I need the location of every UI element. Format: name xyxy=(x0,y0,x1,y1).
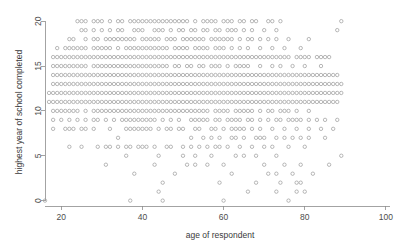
data-point xyxy=(250,37,253,40)
data-point xyxy=(64,82,67,85)
data-point xyxy=(104,109,107,112)
data-point xyxy=(177,73,180,76)
data-point xyxy=(275,190,278,193)
x-tick-label: 60 xyxy=(219,212,229,222)
data-point xyxy=(76,109,79,112)
data-point xyxy=(222,37,225,40)
data-point xyxy=(153,28,156,31)
data-point xyxy=(169,55,172,58)
data-point xyxy=(96,64,99,67)
data-point xyxy=(198,64,201,67)
data-point xyxy=(137,118,140,121)
data-point xyxy=(189,118,192,121)
data-point xyxy=(193,100,196,103)
data-point xyxy=(275,100,278,103)
data-point xyxy=(112,91,115,94)
data-point xyxy=(303,190,306,193)
data-point xyxy=(258,136,261,139)
data-point xyxy=(262,28,265,31)
data-point xyxy=(214,19,217,22)
data-point xyxy=(177,46,180,49)
data-point xyxy=(145,91,148,94)
data-point xyxy=(271,19,274,22)
data-point xyxy=(323,73,326,76)
data-point xyxy=(287,37,290,40)
data-point xyxy=(250,19,253,22)
data-point xyxy=(124,82,127,85)
data-point xyxy=(129,37,132,40)
data-point xyxy=(295,82,298,85)
data-point xyxy=(250,145,253,148)
data-point xyxy=(165,127,168,130)
data-point xyxy=(141,100,144,103)
data-point xyxy=(76,100,79,103)
data-point xyxy=(72,37,75,40)
data-point xyxy=(271,109,274,112)
data-point xyxy=(222,46,225,49)
data-point xyxy=(88,55,91,58)
data-point xyxy=(149,82,152,85)
data-point xyxy=(161,19,164,22)
data-point xyxy=(161,118,164,121)
data-point xyxy=(145,37,148,40)
data-point xyxy=(315,73,318,76)
data-point xyxy=(279,82,282,85)
data-point xyxy=(218,46,221,49)
data-point xyxy=(169,109,172,112)
data-point xyxy=(234,55,237,58)
data-point xyxy=(177,28,180,31)
data-point xyxy=(234,100,237,103)
data-point xyxy=(177,64,180,67)
data-point xyxy=(169,73,172,76)
data-point xyxy=(283,100,286,103)
scatter-plot-figure: 05101520 20406080100 age of respondent h… xyxy=(0,0,396,247)
data-point xyxy=(116,37,119,40)
data-point xyxy=(165,82,168,85)
data-point xyxy=(68,37,71,40)
data-point xyxy=(153,91,156,94)
data-point xyxy=(254,100,257,103)
data-point xyxy=(262,73,265,76)
data-point xyxy=(287,73,290,76)
data-point xyxy=(169,82,172,85)
y-axis-title: highest year of school completed xyxy=(14,50,24,175)
x-axis: 20406080100 xyxy=(45,206,393,222)
data-point xyxy=(145,109,148,112)
data-point xyxy=(165,109,168,112)
data-point xyxy=(100,19,103,22)
data-point xyxy=(198,37,201,40)
data-point xyxy=(145,64,148,67)
data-point xyxy=(230,172,233,175)
data-point xyxy=(169,19,172,22)
data-point xyxy=(279,73,282,76)
data-point xyxy=(137,82,140,85)
data-point xyxy=(234,28,237,31)
data-point xyxy=(137,91,140,94)
data-point xyxy=(230,28,233,31)
data-point xyxy=(68,82,71,85)
data-point xyxy=(202,73,205,76)
data-point xyxy=(80,73,83,76)
data-point xyxy=(271,100,274,103)
data-point xyxy=(100,64,103,67)
data-point xyxy=(226,100,229,103)
data-point xyxy=(96,73,99,76)
data-point xyxy=(55,82,58,85)
data-point xyxy=(222,82,225,85)
data-point xyxy=(189,64,192,67)
data-point xyxy=(291,100,294,103)
data-point xyxy=(64,127,67,130)
data-point xyxy=(299,91,302,94)
data-point xyxy=(214,46,217,49)
data-point xyxy=(254,55,257,58)
data-point xyxy=(84,100,87,103)
data-point xyxy=(145,55,148,58)
data-point xyxy=(181,154,184,157)
data-point xyxy=(275,136,278,139)
data-point xyxy=(169,91,172,94)
data-point xyxy=(287,82,290,85)
data-point xyxy=(157,19,160,22)
data-point xyxy=(51,91,54,94)
data-point xyxy=(250,118,253,121)
data-point xyxy=(116,46,119,49)
